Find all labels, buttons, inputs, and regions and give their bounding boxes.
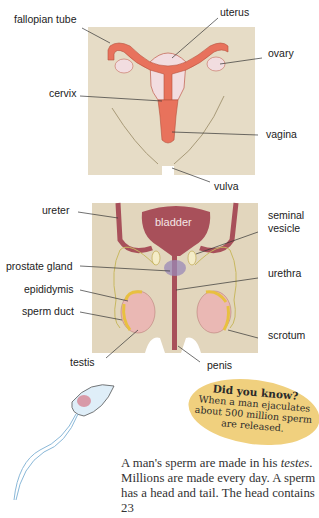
label-uterus: uterus [220, 7, 249, 18]
body-text-part1: A man's sperm are made in his [121, 456, 281, 470]
label-epididymis: epididymis [24, 284, 74, 295]
label-vagina: vagina [266, 129, 297, 140]
label-vulva: vulva [214, 181, 239, 192]
label-urethra: urethra [268, 268, 301, 279]
label-prostate-gland: prostate gland [6, 261, 73, 272]
label-bladder: bladder [155, 217, 192, 228]
label-sperm-duct: sperm duct [22, 306, 74, 317]
label-penis: penis [207, 360, 232, 371]
sperm-illustration [14, 385, 114, 500]
anatomy-illustrations [0, 0, 319, 518]
label-seminal: seminal [268, 210, 304, 221]
female-reproductive-diagram [88, 27, 255, 178]
label-cervix: cervix [49, 88, 76, 99]
body-paragraph: A man's sperm are made in his testes. Mi… [121, 456, 319, 516]
label-ureter: ureter [42, 205, 69, 216]
label-ovary: ovary [268, 48, 294, 59]
label-scrotum: scrotum [268, 330, 305, 341]
body-text-italic: testes [281, 456, 309, 470]
label-fallopian-tube: fallopian tube [14, 14, 76, 25]
label-testis: testis [70, 357, 95, 368]
label-vesicle: vesicle [268, 223, 300, 234]
